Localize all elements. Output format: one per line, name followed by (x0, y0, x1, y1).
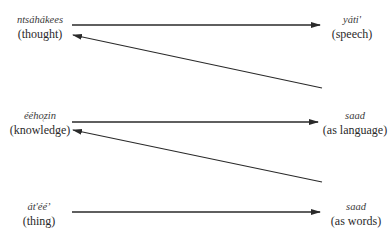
gloss-term: (thing) (14, 214, 64, 228)
gloss-term: (thought) (8, 27, 72, 41)
gloss-term: (as language) (318, 123, 392, 137)
gloss-term: (as words) (324, 214, 388, 228)
arrow-language-to-thought (73, 35, 322, 88)
native-term: saad (318, 109, 392, 123)
gloss-term: (knowledge) (6, 123, 74, 137)
node-speech: yáti' (speech) (324, 13, 380, 41)
arrow-words-to-knowledge (73, 130, 322, 182)
node-thought: ntsáhákees (thought) (8, 13, 72, 41)
gloss-term: (speech) (324, 27, 380, 41)
native-term: ntsáhákees (8, 13, 72, 27)
node-thing: át'ééʼ (thing) (14, 200, 64, 228)
node-knowledge: éého̜zin (knowledge) (6, 109, 74, 137)
native-term: át'ééʼ (14, 200, 64, 214)
native-term: saad (324, 200, 388, 214)
node-as-language: saad (as language) (318, 109, 392, 137)
node-as-words: saad (as words) (324, 200, 388, 228)
native-term: yáti' (324, 13, 380, 27)
native-term: éého̜zin (6, 109, 74, 123)
